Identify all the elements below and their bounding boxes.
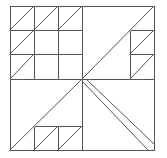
tl-d-r1c1-line: [10, 6, 34, 30]
bl-d2-line: [58, 126, 82, 150]
br-band-2-line: [86, 79, 154, 144]
tr-d1-line: [130, 30, 154, 54]
br-band-1-line: [82, 81, 148, 150]
tr-big-diag-line: [82, 6, 154, 79]
tr-d2-line: [130, 54, 154, 79]
diagram-lines: [10, 6, 155, 151]
tl-d-r1c3-line: [58, 6, 82, 30]
bl-d1-line: [34, 126, 58, 150]
bl-big-diag-line: [10, 79, 82, 150]
tl-d-r3c1-line: [10, 54, 34, 79]
quilt-block-diagram: [0, 0, 167, 158]
tl-d-r2c1-line: [10, 30, 34, 54]
tl-d-r1c2-line: [34, 6, 58, 30]
